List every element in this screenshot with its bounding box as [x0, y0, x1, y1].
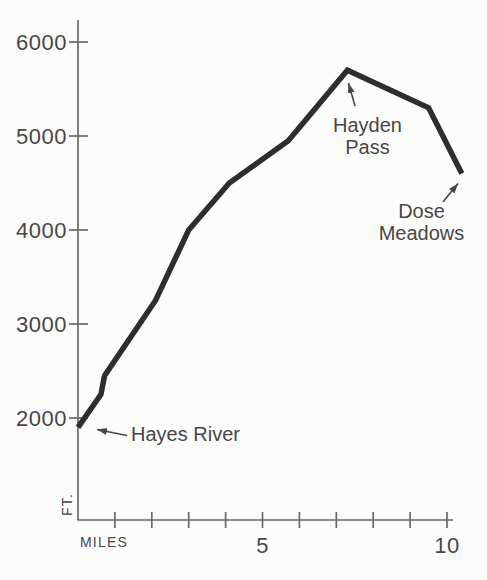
hayden-pass-label-line2: Pass [345, 136, 389, 158]
hayes-river-arrow-icon [97, 430, 127, 436]
hayes-river-label: Hayes River [131, 423, 240, 445]
x-tick-label: 10 [434, 533, 459, 558]
dose-meadows-label-line1: Dose [398, 200, 445, 222]
x-tick-label: 5 [256, 533, 269, 558]
y-tick-label: 3000 [16, 312, 67, 337]
y-tick-label: 2000 [16, 406, 67, 431]
y-tick-label: 6000 [16, 30, 67, 55]
x-axis-tick-labels: 510 [256, 533, 460, 558]
elevation-profile-figure: 20003000400050006000 510 FT. MILES Hayes… [0, 0, 487, 580]
y-tick-label: 4000 [16, 218, 67, 243]
x-axis-unit-label: MILES [80, 534, 128, 550]
annotation-hayden-pass: Hayden Pass [333, 83, 402, 158]
elevation-profile-line [78, 70, 462, 427]
annotation-dose-meadows: Dose Meadows [379, 184, 465, 244]
y-tick-label: 5000 [16, 124, 67, 149]
elevation-profile-chart: 20003000400050006000 510 FT. MILES Hayes… [0, 0, 487, 580]
annotation-hayes-river: Hayes River [97, 423, 240, 445]
dose-meadows-label-line2: Meadows [379, 222, 465, 244]
dose-meadows-arrow-icon [443, 184, 458, 203]
y-axis-unit-label: FT. [59, 493, 75, 516]
hayden-pass-arrow-icon [349, 83, 356, 106]
y-axis-tick-labels: 20003000400050006000 [16, 30, 67, 431]
hayden-pass-label-line1: Hayden [333, 114, 402, 136]
